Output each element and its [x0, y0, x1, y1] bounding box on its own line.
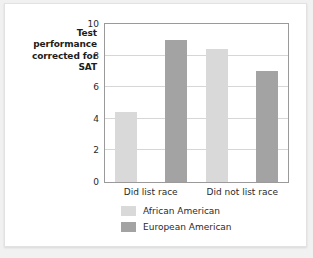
x-category-label: Did not list race — [187, 187, 289, 198]
x-category-label: Did list race — [95, 187, 197, 198]
chart-legend: African AmericanEuropean American — [121, 204, 232, 236]
bar-1-1 — [256, 71, 278, 182]
legend-item: African American — [121, 204, 232, 218]
legend-item: European American — [121, 220, 232, 234]
bar-1-0 — [165, 40, 187, 182]
bar-0-1 — [206, 49, 228, 182]
y-tick-label: 6 — [77, 82, 99, 92]
bar-0-0 — [115, 112, 137, 182]
y-tick-label: 4 — [77, 114, 99, 124]
y-tick-label: 2 — [77, 145, 99, 155]
legend-label: European American — [143, 222, 232, 232]
y-tick-label: 0 — [77, 177, 99, 187]
legend-swatch-icon — [121, 222, 136, 232]
legend-label: African American — [143, 206, 220, 216]
gridline — [105, 55, 288, 56]
y-tick-label: 8 — [77, 51, 99, 61]
legend-swatch-icon — [121, 206, 136, 216]
figure-card: Test performance corrected for SAT 02468… — [4, 3, 307, 247]
y-tick-label: 10 — [77, 19, 99, 29]
plot-area — [104, 23, 289, 183]
